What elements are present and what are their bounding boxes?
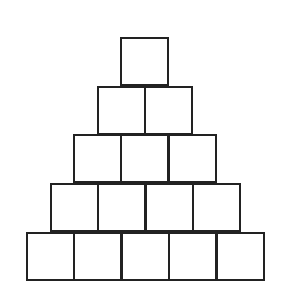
pyramid-cell-r3-c3 bbox=[168, 134, 217, 183]
pyramid-cell-r5-c3 bbox=[121, 232, 170, 281]
pyramid-cell-r4-c2 bbox=[97, 183, 146, 232]
pyramid-cell-r5-c5 bbox=[216, 232, 265, 281]
pyramid-cell-r5-c1 bbox=[26, 232, 75, 281]
pyramid-cell-r4-c4 bbox=[192, 183, 241, 232]
pyramid-cell-r1-c1 bbox=[120, 37, 169, 86]
pyramid-cell-r2-c1 bbox=[97, 86, 146, 135]
pyramid-cell-r5-c4 bbox=[168, 232, 217, 281]
pyramid-cell-r5-c2 bbox=[73, 232, 122, 281]
pyramid-cell-r3-c1 bbox=[73, 134, 122, 183]
pyramid-cell-r2-c2 bbox=[144, 86, 193, 135]
pyramid-cell-r4-c3 bbox=[145, 183, 194, 232]
pyramid-cell-r3-c2 bbox=[120, 134, 169, 183]
pyramid-cell-r4-c1 bbox=[50, 183, 99, 232]
